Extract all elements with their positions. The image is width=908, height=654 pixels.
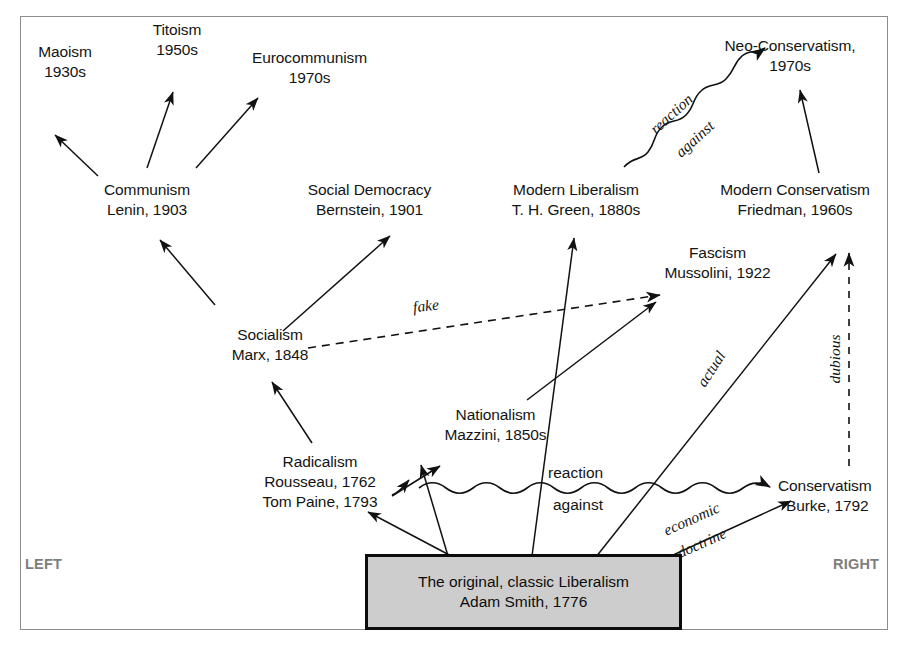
node-communism-line2: Lenin, 1903 (82, 200, 212, 220)
node-eurocommunism: Eurocommunism 1970s (232, 48, 387, 88)
node-modern-liberalism: Modern Liberalism T. H. Green, 1880s (486, 180, 666, 220)
node-modern-conservatism-line1: Modern Conservatism (720, 181, 870, 198)
node-maoism-line2: 1930s (10, 62, 120, 82)
diagram-frame (20, 16, 888, 630)
node-eurocommunism-line1: Eurocommunism (252, 49, 367, 66)
node-maoism: Maoism 1930s (10, 42, 120, 82)
classic-liberalism-line1: The original, classic Liberalism (418, 572, 629, 592)
node-social-democracy-line2: Bernstein, 1901 (287, 200, 452, 220)
edge-label-reaction-middle: reaction (548, 464, 603, 482)
node-conservatism-line1: Conservatism (778, 477, 872, 494)
node-nationalism-line2: Mazzini, 1850s (418, 425, 573, 445)
node-fascism: Fascism Mussolini, 1922 (640, 243, 795, 283)
node-conservatism: Conservatism Burke, 1792 (778, 476, 908, 516)
node-maoism-line1: Maoism (38, 43, 92, 60)
edge-label-dubious: dubious (826, 334, 844, 383)
edge-label-fake: fake (412, 296, 440, 317)
node-radicalism-line1: Radicalism (283, 453, 358, 470)
node-conservatism-line2: Burke, 1792 (778, 496, 908, 516)
node-fascism-line2: Mussolini, 1922 (640, 263, 795, 283)
node-titoism-line1: Titoism (153, 21, 202, 38)
node-fascism-line1: Fascism (689, 244, 746, 261)
classic-liberalism-box: The original, classic Liberalism Adam Sm… (365, 554, 682, 630)
node-modern-liberalism-line1: Modern Liberalism (513, 181, 639, 198)
node-modern-conservatism: Modern Conservatism Friedman, 1960s (700, 180, 890, 220)
node-titoism-line2: 1950s (122, 40, 232, 60)
node-communism: Communism Lenin, 1903 (82, 180, 212, 220)
node-neo-conservatism-line2: 1970s (700, 56, 880, 76)
node-socialism-line2: Marx, 1848 (205, 345, 335, 365)
node-nationalism: Nationalism Mazzini, 1850s (418, 405, 573, 445)
edge-label-against-middle: against (553, 496, 603, 514)
node-communism-line1: Communism (104, 181, 190, 198)
node-radicalism: Radicalism Rousseau, 1762 Tom Paine, 179… (240, 452, 400, 512)
node-titoism: Titoism 1950s (122, 20, 232, 60)
node-socialism-line1: Socialism (237, 326, 302, 343)
node-modern-conservatism-line2: Friedman, 1960s (700, 200, 890, 220)
spectrum-label-right: RIGHT (833, 556, 879, 572)
node-neo-conservatism: Neo-Conservatism, 1970s (700, 36, 880, 76)
node-social-democracy-line1: Social Democracy (308, 181, 431, 198)
node-eurocommunism-line2: 1970s (232, 68, 387, 88)
node-social-democracy: Social Democracy Bernstein, 1901 (287, 180, 452, 220)
node-modern-liberalism-line2: T. H. Green, 1880s (486, 200, 666, 220)
node-radicalism-line3: Tom Paine, 1793 (240, 492, 400, 512)
spectrum-label-left: LEFT (25, 556, 62, 572)
node-radicalism-line2: Rousseau, 1762 (240, 472, 400, 492)
node-nationalism-line1: Nationalism (456, 406, 536, 423)
diagram-canvas: Maoism 1930s Titoism 1950s Eurocommunism… (0, 0, 908, 654)
classic-liberalism-line2: Adam Smith, 1776 (460, 592, 588, 612)
node-neo-conservatism-line1: Neo-Conservatism, (725, 37, 856, 54)
node-socialism: Socialism Marx, 1848 (205, 325, 335, 365)
